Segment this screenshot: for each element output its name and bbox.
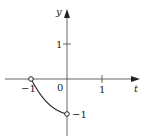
function-graph: y t 0 −1 1 1 −1: [0, 0, 142, 138]
origin-label: 0: [57, 82, 63, 93]
x-tick-label-1: 1: [99, 84, 105, 95]
y-tick-label-1: 1: [56, 39, 62, 50]
y-axis-arrow-icon: [64, 9, 70, 18]
open-point-left: [29, 77, 34, 82]
x-tick-label-neg1: −1: [21, 83, 36, 94]
t-axis-label: t: [134, 83, 139, 94]
t-axis-arrow-icon: [131, 76, 140, 82]
open-point-bottom: [65, 112, 70, 117]
y-axis-label: y: [55, 6, 62, 17]
y-tick-label-neg1: −1: [72, 109, 87, 120]
